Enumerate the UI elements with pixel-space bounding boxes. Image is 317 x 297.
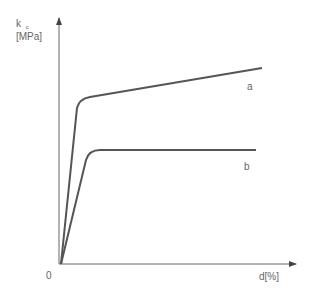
curve-b [61,150,256,264]
x-axis-label: d[%] [259,271,279,282]
curve-a-label: a [247,81,253,92]
curve-b-label: b [244,161,250,172]
y-axis-symbol: k [16,18,21,29]
y-axis-label: k c [MPa] [16,18,42,42]
origin-label: 0 [46,270,52,281]
y-axis-subscript: c [26,24,29,30]
stress-strain-diagram [0,0,317,297]
curve-a [61,68,262,264]
y-axis-unit: [MPa] [16,31,42,42]
